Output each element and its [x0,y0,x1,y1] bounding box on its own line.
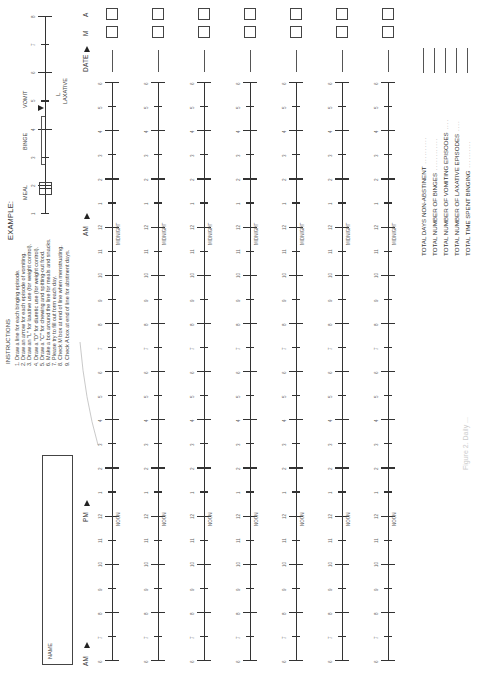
hour-label: 9 [190,299,195,302]
hour-label: 3 [236,444,241,447]
menstruating-checkbox[interactable] [336,26,348,38]
date-field[interactable] [158,50,159,72]
hour-label: 8 [98,612,103,615]
hour-label: 10 [374,562,379,567]
hour-tick [108,299,116,300]
hour-tick [154,395,162,396]
menstruating-checkbox[interactable] [382,26,394,38]
hour-tick [384,491,392,492]
date-field[interactable] [250,50,251,72]
example-tick-label: 6 [31,72,36,75]
menstruating-checkbox[interactable] [244,26,256,38]
name-field[interactable]: NAME [42,455,73,665]
date-field[interactable] [112,50,113,72]
abstinent-checkbox[interactable] [244,8,256,20]
abstinent-checkbox[interactable] [290,8,302,20]
hour-label: 3 [282,444,287,447]
date-field[interactable] [388,50,389,72]
hour-label: 5 [144,107,149,110]
totals-value-field[interactable] [456,48,457,73]
figure-caption: Figure 2. Daily ... [462,417,469,470]
hour-label: 4 [144,420,149,423]
date-field[interactable] [342,50,343,72]
hour-label: 1 [282,203,287,206]
hour-label: 11 [144,249,149,254]
hour-label: 11 [282,249,287,254]
midnight-label: MIDNIGHT [254,222,259,244]
hour-label: 2 [236,468,241,471]
hour-tick [338,299,346,300]
totals-value-field[interactable] [467,48,468,73]
a-label: A [82,12,89,17]
hour-tick [289,612,303,613]
hour-tick [200,106,208,107]
hour-tick [154,588,162,589]
hour-label: 3 [328,444,333,447]
hour-label: 10 [236,562,241,567]
date-field[interactable] [296,50,297,72]
hour-label: 6 [98,660,103,663]
hour-label: 11 [190,538,195,543]
hour-label: 4 [190,131,195,134]
hour-tick [292,202,300,203]
hour-tick [381,82,395,83]
hour-tick [105,660,119,661]
date-field[interactable] [204,50,205,72]
totals-label-text: TOTAL DAYS NON-ABSTINENT [420,167,427,257]
hour-label: 7 [190,347,195,350]
example-tick [41,157,49,158]
hour-label: 6 [328,371,333,374]
hour-label: 8 [98,323,103,326]
hour-tick [246,347,254,348]
hour-label: 4 [98,420,103,423]
hour-tick [200,636,208,637]
example-binge-cap-top [41,116,45,117]
hour-tick [246,443,254,444]
abstinent-checkbox[interactable] [152,8,164,20]
example-tick [41,100,49,101]
hour-tick [151,612,165,613]
abstinent-checkbox[interactable] [382,8,394,20]
hour-tick [197,660,211,661]
hour-label: 8 [282,323,287,326]
hour-label: 8 [236,612,241,615]
hour-label: 6 [190,82,195,85]
hour-tick [200,154,208,155]
hour-tick [289,178,303,179]
menstruating-checkbox[interactable] [152,26,164,38]
hour-tick [335,323,349,324]
hour-tick [289,660,303,661]
hour-tick [384,443,392,444]
hour-tick [154,443,162,444]
hour-tick [292,636,300,637]
example-tick-label: 2 [31,184,36,187]
totals-value-field[interactable] [445,48,446,73]
totals-value-field[interactable] [423,48,424,73]
hour-label: 3 [328,155,333,158]
hour-tick [338,395,346,396]
hour-tick [151,660,165,661]
hour-label: 12 [98,513,103,518]
hour-label: 7 [236,636,241,639]
noon-label: NOON [392,512,397,526]
hour-tick [246,636,254,637]
hour-label: 5 [328,107,333,110]
abstinent-checkbox[interactable] [198,8,210,20]
example-binge-cap-bottom [41,164,45,165]
abstinent-checkbox[interactable] [106,8,118,20]
hour-tick [292,154,300,155]
hour-label: 9 [374,299,379,302]
hour-label: 12 [374,513,379,518]
menstruating-checkbox[interactable] [198,26,210,38]
abstinent-checkbox[interactable] [336,8,348,20]
hour-label: 3 [374,155,379,158]
hour-label: 5 [98,107,103,110]
totals-value-field[interactable] [434,48,435,73]
noon-label: NOON [254,512,259,526]
hour-tick [335,564,349,565]
hour-tick [243,82,257,83]
hour-tick [200,347,208,348]
hour-label: 11 [374,538,379,543]
menstruating-checkbox[interactable] [290,26,302,38]
menstruating-checkbox[interactable] [106,26,118,38]
